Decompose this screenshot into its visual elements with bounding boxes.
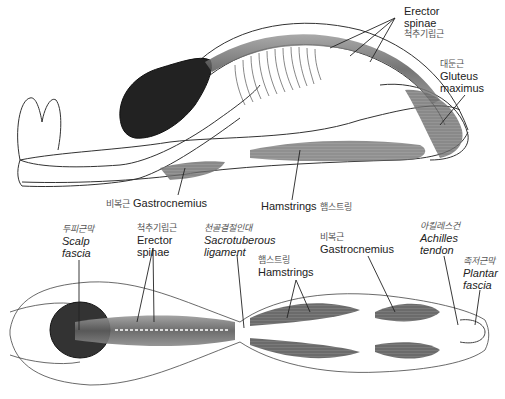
label-en-line2: fascia [463,279,498,291]
label-ko: 천골결절인대 [204,223,276,234]
label-en: Hamstrings [258,266,314,278]
label-gastrocnemius-bottom: 비복근 Gastrocnemius [320,232,394,255]
anatomy-illustration [0,0,505,399]
label-gluteus-maximus: 대둔근 Gluteus maximus [440,59,484,94]
label-ko: 햄스트링 [320,202,352,212]
label-ko: 비복근 [106,199,130,209]
label-ko: 햄스트링 [258,255,314,266]
label-en-line2: spinae [404,17,444,29]
label-gastrocnemius-top: 비복근 Gastrocnemius [106,197,207,210]
label-ko: 척추기립근 [137,223,177,234]
label-achilles-tendon: 아킬레스건 Achilles tendon [420,221,460,256]
label-ko: 척추기립근 [404,29,444,40]
label-en: Gastrocnemius [320,243,394,255]
label-erector-spinae-top: Erector spinae 척추기립근 [404,5,444,40]
label-en-line2: fascia [62,247,94,259]
label-scalp-fascia: 두피근막 Scalp fascia [62,224,94,259]
label-en-line2: maximus [440,82,484,94]
gastrocnemius-muscle-bottom-lower [375,342,440,358]
label-en-line1: Scalp [62,235,94,247]
label-en-line2: spinae [137,246,177,258]
label-hamstrings-bottom: 햄스트링 Hamstrings [258,255,314,278]
label-en-line2: tendon [420,244,460,256]
label-en-line1: Erector [404,5,444,17]
label-ko: 족저근막 [463,256,498,267]
label-hamstrings-top: Hamstrings 햄스트링 [261,200,352,213]
label-en-line1: Gluteus [440,70,484,82]
label-plantar-fascia: 족저근막 Plantar fascia [463,256,498,291]
hamstrings-muscle-bottom-upper [250,303,360,326]
label-en-line1: Erector [137,234,177,246]
gastrocnemius-muscle-bottom-upper [375,304,440,322]
label-en: Gastrocnemius [133,197,207,209]
hamstrings-muscle-bottom-lower [250,338,360,358]
label-en-line1: Sacrotuberous [204,234,276,246]
label-ko: 아킬레스건 [420,221,460,232]
label-ko: 두피근막 [62,224,94,235]
head-hair [120,58,211,138]
label-ko: 대둔근 [440,59,484,70]
hamstrings-muscle-top [250,141,425,161]
label-en-line1: Achilles [420,232,460,244]
label-en: Hamstrings [261,200,317,212]
label-en-line1: Plantar [463,267,498,279]
label-ko: 비복근 [320,232,394,243]
label-erector-spinae-bottom: 척추기립근 Erector spinae [137,223,177,258]
label-sacrotuberous-ligament: 천골결절인대 Sacrotuberous ligament [204,223,276,258]
